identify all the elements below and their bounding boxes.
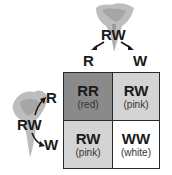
- top-gamete-r: R: [83, 53, 94, 68]
- left-gamete-r: R: [46, 90, 57, 105]
- cell-phenotype: (red): [77, 99, 98, 111]
- cell-rw-top: RW (pink): [113, 73, 159, 121]
- arrow-right-icon: [120, 41, 134, 51]
- cell-rr: RR (red): [64, 73, 113, 121]
- cell-genotype: RR: [77, 83, 99, 98]
- cell-phenotype: (pink): [123, 99, 148, 111]
- cell-genotype: WW: [122, 131, 150, 146]
- cell-genotype: RW: [124, 83, 149, 98]
- left-parent-genotype: RW: [17, 117, 42, 132]
- cell-rw-bottom: RW (pink): [64, 121, 113, 168]
- arrow-left-icon: [91, 41, 105, 51]
- top-parent-genotype: RW: [101, 27, 126, 42]
- arrow-up-right-icon: [33, 96, 47, 116]
- cell-genotype: RW: [76, 131, 101, 146]
- left-gamete-w: W: [44, 137, 58, 152]
- punnett-square: RR (red) RW (pink) RW (pink) WW (white): [63, 72, 160, 169]
- cell-phenotype: (white): [121, 147, 151, 159]
- top-gamete-w: W: [133, 53, 147, 68]
- cell-phenotype: (pink): [75, 147, 100, 159]
- cell-ww: WW (white): [113, 121, 159, 168]
